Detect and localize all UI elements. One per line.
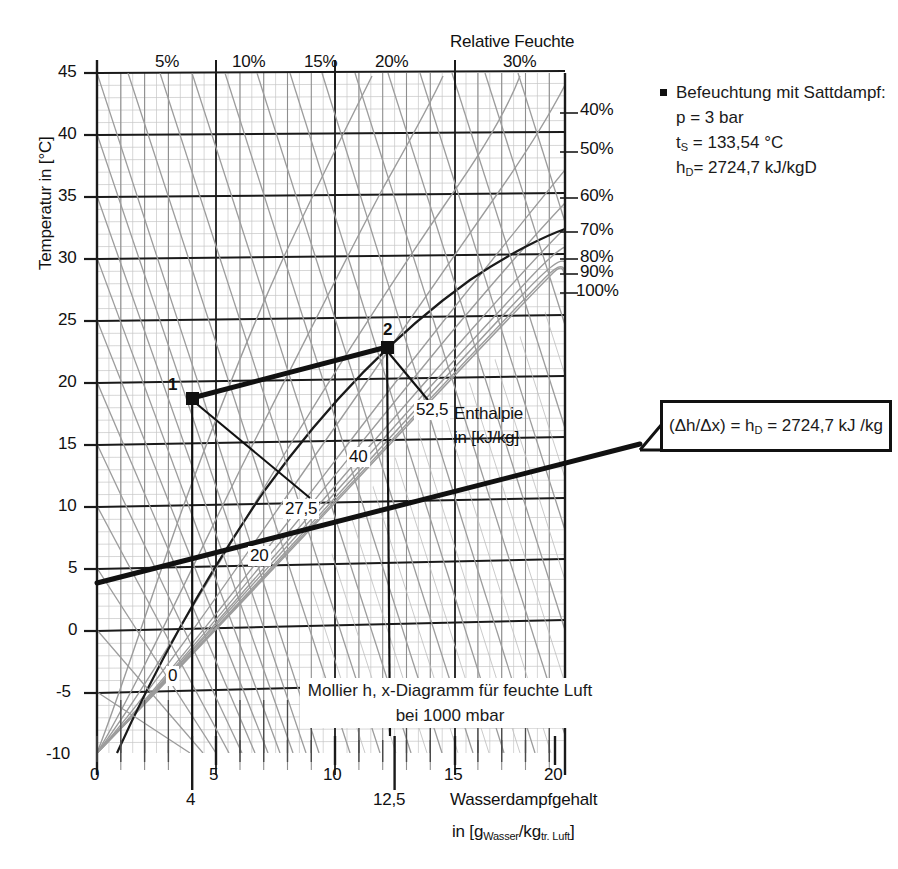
y-tick-20: 20 [58,372,77,392]
callout-connector [640,408,662,450]
callout-sub: D [755,424,763,436]
rh-label-30pct: 30% [503,52,536,72]
y-axis-title: Temperatur in [°C] [36,136,56,270]
rh-label-60pct: 60% [580,186,613,206]
y-tick-10: 10 [58,496,77,516]
x-tick-extra-12-5: 12,5 [373,790,405,810]
legend-title: Befeuchtung mit Sattdampf: [676,80,886,105]
mollier-diagram-figure: Temperatur in [°C] 45 40 35 30 25 20 15 … [0,0,898,869]
rh-label-40pct: 40% [580,100,613,120]
callout-pre: (Δh/Δx) = h [669,416,755,435]
x-tick-0: 0 [90,765,99,785]
y-tick-neg10: -10 [46,744,70,764]
x-axis-unit-mid: /kg [519,822,541,841]
callout-text: (Δh/Δx) = hD = 2724,7 kJ /kg [669,416,883,436]
enthalpy-label-0: 0 [166,666,179,686]
x-tick-20: 20 [544,765,563,785]
legend-row-enthalpy: hD= 2724,7 kJ/kgD [676,155,817,182]
legend-row-pressure: p = 3 bar [676,105,744,132]
y-tick-45: 45 [58,62,77,82]
state-point-2-label: 2 [383,320,392,340]
y-axis-ticks [84,73,97,693]
legend-bullet-icon [660,89,667,96]
diagram-caption-line1: Mollier h, x-Diagramm für feuchte Luft [300,678,600,703]
rh-label-5pct: 5% [155,52,179,72]
legend-hd-sub: D [685,166,693,178]
relative-humidity-title: Relative Feuchte [450,32,574,52]
diagram-caption: Mollier h, x-Diagramm für feuchte Luft b… [300,678,600,728]
y-tick-25: 25 [58,310,77,330]
slope-callout-box: (Δh/Δx) = hD = 2724,7 kJ /kg [660,400,892,452]
humidity-right-ticks [560,113,578,293]
y-tick-15: 15 [58,434,77,454]
y-tick-35: 35 [58,186,77,206]
x-axis-title-line1: Wasserdampfgehalt [450,790,597,810]
diagram-caption-line2: bei 1000 mbar [300,703,600,728]
y-tick-30: 30 [58,248,77,268]
enthalpy-label-52-5: 52,5 [414,400,450,420]
legend-ts-sub: S [681,141,688,153]
x-axis-unit-pre: in [g [452,822,483,841]
legend-ts-value: = 133,54 °C [688,133,783,152]
x-tick-5: 5 [209,765,218,785]
x-tick-15: 15 [444,765,463,785]
rh-label-15pct: 15% [304,52,337,72]
legend-hd-value: = 2724,7 kJ/kgD [693,158,816,177]
enthalpy-label-40: 40 [347,447,370,467]
rh-label-90pct: 90% [580,262,613,282]
enthalpy-label-20: 20 [248,546,271,566]
rh-label-50pct: 50% [580,139,613,159]
y-tick-40: 40 [58,124,77,144]
x-axis-title-line2: in [gWasser/kgtr. Luft] [452,822,574,842]
rh-label-100pct: 100% [576,281,619,301]
enthalpy-title-line1: Enthalpie [454,404,523,424]
x-axis-unit-post: ] [570,822,575,841]
enthalpy-title-line2: in [kJ/kg] [454,428,519,448]
legend-pressure-value: = 3 bar [685,108,743,127]
enthalpy-leader-lines [192,352,428,498]
x-tick-10: 10 [323,765,342,785]
callout-post: = 2724,7 kJ /kg [763,416,884,435]
y-tick-0: 0 [68,620,77,640]
y-tick-5: 5 [68,558,77,578]
rh-label-70pct: 70% [580,220,613,240]
legend-row-saturation-temp: tS = 133,54 °C [676,130,783,157]
x-tick-extra-4: 4 [186,790,195,810]
x-axis-unit-sub-trluft: tr. Luft [541,830,570,842]
state-point-1-label: 1 [168,375,177,395]
x-axis-unit-sub-wasser: Wasser [483,830,519,842]
y-tick-neg5: -5 [56,682,71,702]
enthalpy-label-27-5: 27,5 [283,499,319,519]
rh-label-20pct: 20% [375,52,408,72]
rh-label-10pct: 10% [232,52,265,72]
